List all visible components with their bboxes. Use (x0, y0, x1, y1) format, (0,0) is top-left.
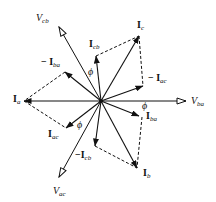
phasor-diagram: Vcb Ic Icb − Iba ϕ − Iac Ia Vba ϕ Iba ϕ … (0, 0, 216, 202)
phasor-negiac (101, 86, 143, 101)
label-ia: Ia (13, 94, 20, 107)
phasor-ic (101, 36, 139, 101)
phasor-negicb (95, 101, 101, 146)
label-phi-top: ϕ (88, 67, 93, 77)
dashed-line (24, 72, 65, 101)
dashed-line (139, 36, 143, 86)
origin-point (99, 99, 103, 103)
label-ic: Ic (137, 20, 144, 33)
label-vba: Vba (191, 96, 204, 109)
phasor-ib (101, 101, 137, 168)
phasor-drawing (0, 0, 216, 202)
label-iba: Iba (146, 111, 157, 124)
dashed-line (24, 101, 66, 128)
phasor-vac (59, 101, 101, 177)
label-vcb: Vcb (36, 13, 49, 26)
dashed-line (137, 117, 142, 168)
label-iac: Iac (48, 129, 59, 142)
phasor-iac (66, 101, 101, 128)
label-neg-iba: − Iba (41, 57, 60, 70)
label-neg-icb: −Icb (75, 150, 91, 163)
label-vac: Vac (53, 186, 66, 199)
label-phi-left: ϕ (77, 120, 82, 130)
phasor-iba (101, 101, 139, 116)
label-ib: Ib (143, 168, 150, 181)
label-neg-iac: − Iac (148, 73, 167, 86)
label-icb: Icb (89, 39, 100, 52)
phasor-negiba (65, 72, 101, 101)
